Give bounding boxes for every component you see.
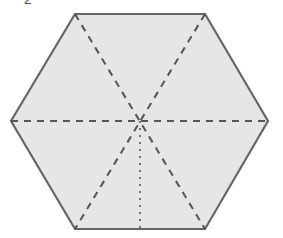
hexagon-diagram <box>0 0 283 238</box>
